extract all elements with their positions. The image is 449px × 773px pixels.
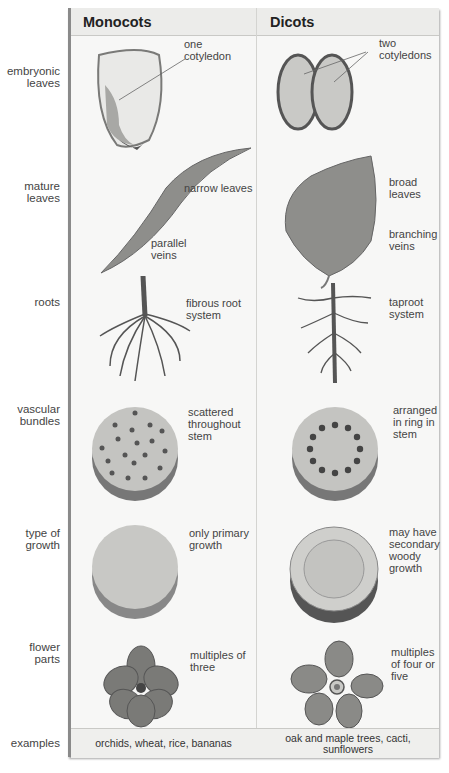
primary-growth-icon [91, 523, 181, 623]
caption-taproot-system: taprootsystem [389, 296, 424, 320]
flower-three-icon [101, 646, 181, 728]
row-label-mature-leaves: matureleaves [24, 180, 60, 204]
fibrous-root-icon [95, 276, 195, 386]
scattered-bundles-icon [90, 403, 180, 503]
caption-only-primary-growth: only primarygrowth [189, 527, 249, 551]
row-label-examples: examples [11, 737, 60, 749]
examples-monocots: orchids, wheat, rice, bananas [71, 729, 256, 758]
row-label-type-of-growth: type ofgrowth [25, 527, 60, 551]
caption-secondary-woody-growth: may havesecondarywoodygrowth [389, 526, 440, 574]
caption-one-cotyledon: onecotyledon [184, 38, 231, 62]
seed-monocot-icon [89, 45, 189, 155]
caption-narrow-leaves: narrow leaves [184, 182, 252, 194]
row-label-vascular-bundles: vascularbundles [17, 403, 60, 427]
table-header: Monocots Dicots [71, 8, 439, 36]
row-label-embryonic-leaves: embryonicleaves [7, 65, 60, 89]
caption-two-cotyledons: twocotyledons [379, 37, 432, 61]
examples-row: orchids, wheat, rice, bananas oak and ma… [71, 728, 439, 758]
caption-branching-veins: branchingveins [389, 228, 437, 252]
row-label-flower-parts: flowerparts [29, 641, 60, 665]
column-header-monocots: Monocots [83, 14, 151, 30]
broad-leaf-icon [281, 156, 381, 286]
comparison-table: Monocots Dicots onecotyledon twocotyledo… [68, 8, 439, 757]
column-header-dicots: Dicots [270, 14, 314, 30]
examples-dicots: oak and maple trees, cacti, sunflowers [257, 729, 439, 758]
caption-scattered-throughout-stem: scatteredthroughoutstem [188, 406, 241, 442]
flower-five-icon [291, 641, 379, 729]
ring-bundles-icon [290, 403, 380, 503]
caption-fibrous-root-system: fibrous rootsystem [186, 297, 241, 321]
row-label-roots: roots [34, 296, 60, 308]
caption-multiples-of-three: multiples ofthree [190, 649, 246, 673]
taproot-icon [293, 283, 373, 388]
caption-parallel-veins: parallelveins [151, 237, 186, 261]
caption-broad-leaves: broadleaves [389, 176, 421, 200]
caption-arranged-in-ring: arrangedin ring instem [393, 404, 437, 440]
caption-multiples-of-four-or-five: multiplesof four orfive [391, 646, 435, 682]
seed-dicot-icon [276, 52, 386, 132]
column-divider [256, 8, 257, 757]
secondary-growth-icon [289, 523, 381, 628]
